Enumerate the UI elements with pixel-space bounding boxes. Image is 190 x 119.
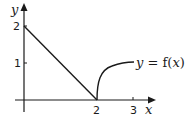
y-axis-label: y [10, 2, 19, 17]
x-tick-label-3: 3 [130, 104, 137, 117]
linear-segment [24, 26, 97, 100]
function-graph: 2 1 2 3 y x y = f(x) [0, 0, 190, 119]
y-axis-arrow-icon [21, 3, 28, 11]
curve-label: y = f(x) [135, 55, 185, 70]
curve-segment [97, 62, 134, 100]
x-tick-label-2: 2 [93, 104, 100, 117]
x-axis-label: x [145, 102, 153, 117]
y-tick-label-2: 2 [13, 20, 20, 33]
y-tick-label-1: 1 [14, 57, 21, 70]
